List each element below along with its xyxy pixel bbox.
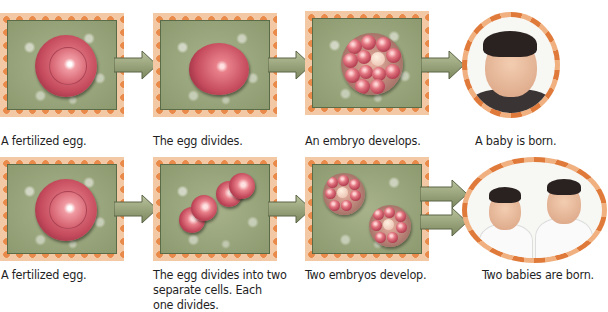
arrow-right-icon — [114, 50, 158, 80]
embryo-cluster-icon — [341, 33, 403, 95]
twins-photo-frame — [462, 157, 607, 263]
caption-line: one divides. — [153, 297, 293, 312]
dividing-egg-icon — [189, 43, 249, 95]
caption-row1-step4: A baby is born. — [475, 133, 556, 148]
two-cells-panel — [153, 157, 277, 261]
arrow-right-icon — [420, 207, 468, 237]
baby-photo-frame — [462, 12, 560, 118]
fertilized-egg-icon — [35, 179, 97, 241]
single-baby-photo — [467, 17, 555, 113]
fertilized-egg-panel-row2 — [0, 157, 124, 261]
twin-babies-photo — [467, 162, 602, 258]
fertilized-egg-panel-row1 — [0, 13, 124, 117]
dividing-egg-panel — [153, 13, 277, 117]
embryo-cluster-icon — [323, 173, 365, 215]
arrow-right-icon — [420, 179, 468, 209]
caption-row1-step3: An embryo develops. — [305, 133, 421, 148]
embryo-cluster-icon — [369, 205, 411, 247]
caption-row1-step1: A fertilized egg. — [1, 133, 86, 148]
caption-line: The egg divides into two — [153, 267, 293, 282]
fertilized-egg-icon — [35, 35, 97, 97]
caption-row2-step2: The egg divides into two separate cells.… — [153, 267, 293, 312]
arrow-right-icon — [114, 194, 158, 224]
two-embryos-panel — [305, 157, 429, 261]
embryo-panel — [305, 11, 429, 115]
caption-line: separate cells. Each — [153, 282, 293, 297]
caption-row2-step3: Two embryos develop. — [305, 267, 426, 282]
caption-row1-step2: The egg divides. — [153, 133, 243, 148]
caption-row2-step1: A fertilized egg. — [1, 267, 86, 282]
caption-row2-step4: Two babies are born. — [482, 267, 594, 282]
arrow-right-icon — [421, 50, 465, 80]
